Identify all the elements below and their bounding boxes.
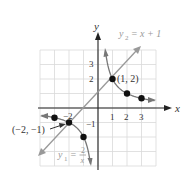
arrow-icon [148,97,156,103]
label-y1-lhs: y [57,149,63,160]
label-y1-den: x [80,156,85,165]
label-y2: y 2 = x + 1 [118,28,161,42]
y-tick-label: −1 [86,119,96,129]
arrow-icon [40,113,48,119]
y-tick-label: 2 [89,74,94,84]
data-point [66,119,72,125]
data-point [80,134,86,140]
arrow-icon [104,48,109,57]
x-tick-label: 3 [139,112,144,122]
data-point [124,90,130,96]
label-y2-lhs: y [118,28,124,39]
label-y1-eq: = [68,149,79,160]
x-tick-label: 1 [110,112,115,122]
x-axis-label: x [174,102,180,114]
label-y1-num: 2 [81,146,85,155]
x-axis-arrow-icon [164,105,172,111]
y-axis-label: y [93,20,99,32]
x-tick-label: 2 [124,112,129,122]
graph: x y −2 1 2 3 −1 2 3 (1, 2) (−2, −1) y [0,0,187,175]
annotation-point-1-2: (1, 2) [117,73,139,85]
label-y1: y 1 = 2 x [57,146,86,165]
y-axis-arrow-icon [95,32,101,40]
arrow-icon [88,158,93,166]
y-tick-labels: −1 2 3 [86,59,96,129]
label-y2-rhs: x + 1 [139,28,161,39]
data-point [51,115,57,121]
data-point [138,95,144,101]
annotation-point-neg2-neg1: (−2, −1) [12,124,45,136]
y-tick-label: 3 [89,59,94,69]
label-y2-eq: = [129,28,140,39]
x-tick-label: −2 [63,111,73,121]
data-point [109,76,115,82]
